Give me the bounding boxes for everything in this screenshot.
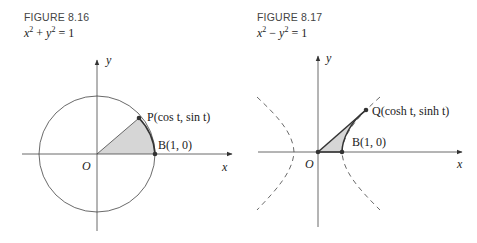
point-b bbox=[340, 150, 345, 155]
point-b-label: B(1, 0) bbox=[158, 138, 192, 152]
point-p-label: P(cos t, sin t) bbox=[147, 110, 210, 124]
hyperbola-left-branch bbox=[257, 97, 294, 210]
point-b-label: B(1, 0) bbox=[352, 135, 386, 149]
figure-8-16-plot: y x O P(cos t, sin t) B(1, 0) bbox=[22, 53, 232, 231]
figure-8-17-plot: y x O Q(cosh t, sinh t) B(1, 0) bbox=[257, 51, 463, 227]
x-axis-label: x bbox=[456, 157, 463, 171]
origin-label: O bbox=[305, 157, 314, 171]
origin-point bbox=[316, 150, 321, 155]
x-axis-label: x bbox=[221, 160, 228, 174]
point-b bbox=[153, 152, 158, 157]
point-q bbox=[364, 108, 369, 113]
y-axis-label: y bbox=[325, 51, 332, 65]
y-axis-label: y bbox=[105, 53, 112, 67]
point-p bbox=[137, 116, 142, 121]
point-q-label: Q(cosh t, sinh t) bbox=[372, 104, 449, 118]
origin-label: O bbox=[82, 159, 91, 173]
diagram-canvas: y x O P(cos t, sin t) B(1, 0) y x O Q(co… bbox=[0, 0, 477, 243]
